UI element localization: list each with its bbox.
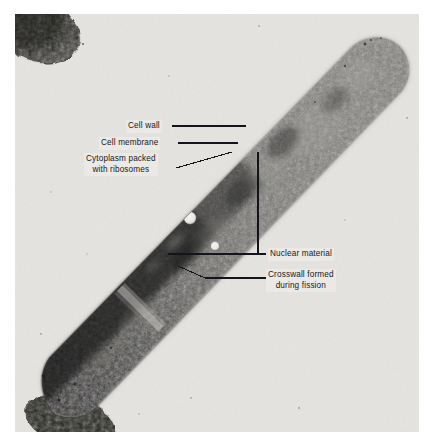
label-nuclear-material-text: Nuclear material bbox=[270, 249, 332, 258]
label-cell-wall: Cell wall bbox=[126, 120, 162, 133]
label-crosswall: Crosswall formed during fission bbox=[266, 269, 336, 292]
label-cell-membrane-text: Cell membrane bbox=[101, 138, 158, 147]
label-cytoplasm: Cytoplasm packed with ribosomes bbox=[84, 153, 158, 176]
label-cytoplasm-line1: Cytoplasm packed bbox=[86, 154, 156, 165]
figure-root: Cell wall Cell membrane Cytoplasm packed… bbox=[0, 0, 430, 447]
label-crosswall-line1: Crosswall formed bbox=[268, 270, 334, 281]
label-crosswall-line2: during fission bbox=[268, 281, 334, 292]
label-cell-membrane: Cell membrane bbox=[99, 137, 160, 150]
micrograph-plate bbox=[15, 14, 419, 432]
label-nuclear-material: Nuclear material bbox=[268, 248, 334, 261]
micrograph-image bbox=[15, 14, 419, 432]
label-cell-wall-text: Cell wall bbox=[128, 121, 160, 130]
label-cytoplasm-line2: with ribosomes bbox=[86, 165, 156, 176]
